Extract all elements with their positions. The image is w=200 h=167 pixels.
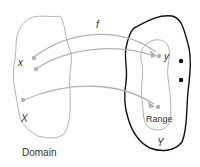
range-label: Range xyxy=(146,114,173,124)
range-point xyxy=(156,105,160,109)
function-mapping-diagram: f x X Domain y Range Y xyxy=(0,0,200,167)
domain-point xyxy=(21,98,25,102)
set-x-label: X xyxy=(20,113,28,124)
codomain-point-outside-range xyxy=(179,78,183,82)
domain-point xyxy=(32,56,36,60)
mapping-arrow-2 xyxy=(36,49,154,69)
codomain-point-outside-range xyxy=(179,59,183,63)
domain-caption: Domain xyxy=(22,147,56,158)
element-x-label: x xyxy=(17,57,24,68)
range-point-y xyxy=(157,54,161,58)
domain-point xyxy=(34,67,38,71)
mapping-arrow-1 xyxy=(34,34,156,57)
set-y-label: Y xyxy=(157,137,165,148)
element-y-label: y xyxy=(163,51,170,62)
mapping-arrow-3 xyxy=(24,86,154,104)
function-label: f xyxy=(96,19,100,30)
